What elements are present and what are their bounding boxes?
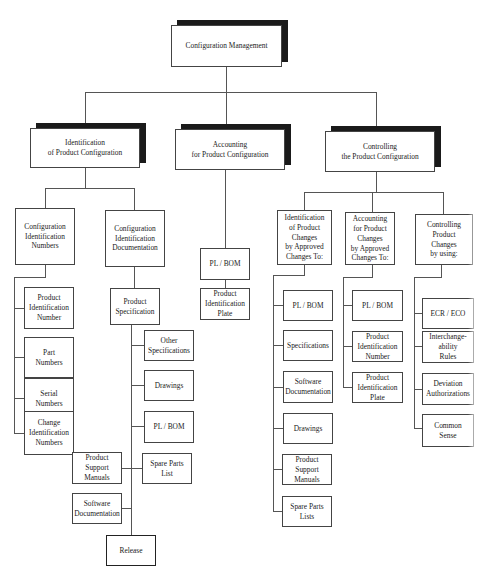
connector [134, 267, 135, 288]
connector [343, 277, 344, 388]
node-software-documentation: Software Documentation [283, 371, 333, 403]
connector [45, 188, 135, 189]
node-other-specifications: Other Specifications [144, 330, 194, 361]
node-spare-parts-lists: Spare Parts Lists [282, 496, 332, 527]
connector [14, 357, 24, 358]
node-product-support-manuals: Product Support Manuals [282, 454, 332, 485]
node-interchangeability-rules: Interchange- ability Rules [422, 331, 474, 363]
node-product-support-manuals: Product Support Manuals [72, 452, 122, 484]
node-identification-of-product-configuration: Identification of Product Configuration [30, 128, 140, 168]
node-configuration-management: Configuration Management [171, 25, 282, 67]
connector [414, 389, 422, 390]
connector [131, 345, 144, 346]
node-product-identification-number: Product Identification Number [352, 331, 403, 362]
node-configuration-identification-documentation: Configuration Identification Documentati… [105, 210, 165, 267]
connector [414, 313, 422, 314]
connector [372, 192, 373, 213]
connector [343, 305, 352, 306]
connector [441, 265, 442, 277]
node-accounting-for-product-changes: Accounting for Product Changes by Approv… [345, 212, 395, 265]
connector [131, 325, 132, 535]
connector [304, 192, 444, 193]
connector [343, 346, 352, 347]
connector [273, 345, 283, 346]
node-release: Release [106, 535, 156, 566]
connector [131, 426, 144, 427]
node-software-documentation: Software Documentation [72, 493, 122, 524]
node-controlling-the-product-configuration: Controlling the Product Configuration [325, 131, 435, 172]
connector [122, 468, 142, 469]
node-product-identification-plate: Product Identification Plate [200, 288, 250, 320]
connector [122, 508, 132, 509]
node-identification-of-product-changes: Identification of Product Changes by App… [277, 210, 332, 265]
connector [443, 192, 444, 215]
node-change-identification-numbers: Change Identification Numbers [24, 411, 74, 455]
connector [376, 92, 377, 130]
connector [414, 428, 422, 429]
node-part-numbers: Part Numbers [24, 337, 74, 378]
node-configuration-identification-numbers: Configuration Identification Numbers [15, 208, 75, 265]
connector [414, 346, 422, 347]
connector [376, 172, 377, 192]
node-pl-bom: PL / BOM [144, 411, 194, 443]
node-accounting-for-product-configuration: Accounting for Product Configuration [175, 129, 285, 170]
node-product-specification: Product Specification [110, 288, 160, 325]
connector [372, 265, 373, 277]
connector [14, 277, 46, 278]
connector [304, 192, 305, 210]
node-drawings: Drawings [283, 413, 333, 444]
connector [131, 385, 144, 386]
connector [273, 387, 283, 388]
connector [414, 277, 442, 278]
node-deviation-authorizations: Deviation Authorizations [422, 373, 474, 405]
connector [45, 265, 46, 277]
connector [273, 428, 283, 429]
connector [414, 277, 415, 429]
node-drawings: Drawings [144, 370, 194, 401]
page-edge-fade [468, 0, 478, 576]
node-ecr-eco: ECR / ECO [422, 298, 474, 329]
node-common-sense: Common Sense [422, 414, 474, 447]
connector [226, 67, 227, 125]
connector [273, 275, 305, 276]
node-controlling-product-changes: Controlling Product Changes by using: [415, 214, 473, 265]
connector [85, 92, 377, 93]
node-pl-bom: PL / BOM [200, 248, 250, 280]
node-specifications: Specifications [283, 330, 333, 361]
connector [45, 188, 46, 208]
connector [273, 275, 274, 512]
connector [85, 168, 86, 188]
node-product-identification-number: Product Identification Number [24, 287, 74, 329]
connector [225, 170, 226, 248]
connector [225, 280, 226, 288]
connector [14, 308, 24, 309]
connector [273, 305, 283, 306]
node-pl-bom: PL / BOM [283, 290, 333, 321]
connector [14, 433, 24, 434]
node-spare-parts-list: Spare Parts List [142, 453, 192, 484]
connector [134, 188, 135, 210]
connector [14, 398, 24, 399]
node-product-identification-plate: Product Identification Plate [352, 372, 403, 403]
connector [343, 387, 352, 388]
connector [343, 277, 373, 278]
connector [304, 265, 305, 275]
connector [14, 277, 15, 434]
node-pl-bom: PL / BOM [352, 290, 403, 321]
